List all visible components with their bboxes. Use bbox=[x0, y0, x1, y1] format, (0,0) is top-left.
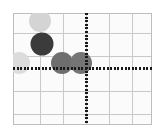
data-point-marker[interactable] bbox=[51, 52, 73, 74]
data-point-marker[interactable] bbox=[70, 52, 92, 74]
plot-canvas bbox=[0, 0, 161, 134]
scatter-plot-figure bbox=[0, 0, 161, 134]
data-point-marker[interactable] bbox=[29, 10, 51, 32]
data-point-marker[interactable] bbox=[31, 33, 54, 56]
